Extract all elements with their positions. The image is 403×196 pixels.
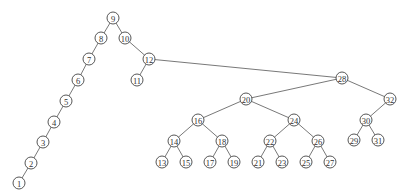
edge-20-16: [198, 99, 246, 120]
tree-node-24: 24: [288, 114, 300, 126]
tree-node-10: 10: [119, 32, 131, 44]
tree-node-14: 14: [168, 135, 180, 147]
tree-node-20: 20: [240, 93, 252, 105]
node-label: 20: [242, 95, 251, 105]
node-label: 28: [338, 74, 347, 84]
edge-20-24: [246, 99, 294, 120]
node-label: 3: [41, 138, 45, 148]
tree-node-8: 8: [95, 32, 107, 44]
tree-node-4: 4: [48, 116, 60, 128]
tree-diagram: 9810712611543212820321624301418222629311…: [0, 0, 403, 196]
node-label: 32: [386, 95, 395, 105]
node-label: 15: [182, 158, 191, 168]
node-label: 13: [158, 158, 167, 168]
tree-node-2: 2: [25, 157, 37, 169]
tree-node-21: 21: [252, 156, 264, 168]
node-label: 26: [314, 137, 323, 147]
tree-node-32: 32: [384, 93, 396, 105]
tree-node-5: 5: [60, 95, 72, 107]
node-label: 23: [278, 158, 287, 168]
tree-node-25: 25: [300, 156, 312, 168]
edge-28-20: [246, 78, 342, 99]
node-label: 1: [17, 179, 21, 189]
tree-node-13: 13: [156, 156, 168, 168]
node-label: 30: [362, 116, 371, 126]
node-label: 7: [87, 55, 91, 65]
node-label: 17: [206, 158, 215, 168]
node-label: 5: [64, 97, 68, 107]
tree-node-1: 1: [13, 177, 25, 189]
edge-12-28: [149, 59, 342, 78]
tree-node-11: 11: [131, 74, 143, 86]
node-label: 27: [326, 158, 335, 168]
tree-node-9: 9: [107, 12, 119, 24]
tree-node-28: 28: [336, 72, 348, 84]
node-label: 16: [194, 116, 203, 126]
tree-nodes: 9810712611543212820321624301418222629311…: [13, 12, 396, 189]
node-label: 9: [111, 14, 115, 24]
node-label: 2: [29, 159, 33, 169]
node-label: 11: [133, 76, 141, 86]
tree-node-30: 30: [360, 114, 372, 126]
node-label: 31: [374, 136, 383, 146]
node-label: 6: [76, 76, 80, 86]
tree-node-17: 17: [204, 156, 216, 168]
node-label: 25: [302, 158, 311, 168]
tree-node-26: 26: [312, 135, 324, 147]
node-label: 24: [290, 116, 299, 126]
tree-node-19: 19: [228, 156, 240, 168]
tree-node-27: 27: [324, 156, 336, 168]
tree-node-12: 12: [143, 53, 155, 65]
tree-node-7: 7: [83, 53, 95, 65]
tree-node-29: 29: [348, 134, 360, 146]
node-label: 8: [99, 34, 103, 44]
node-label: 29: [350, 136, 359, 146]
node-label: 22: [266, 137, 275, 147]
tree-node-22: 22: [264, 135, 276, 147]
tree-node-3: 3: [37, 136, 49, 148]
tree-node-6: 6: [72, 74, 84, 86]
tree-node-31: 31: [372, 134, 384, 146]
node-label: 10: [121, 34, 130, 44]
node-label: 19: [230, 158, 239, 168]
node-label: 21: [254, 158, 263, 168]
node-label: 18: [218, 137, 227, 147]
node-label: 12: [145, 55, 154, 65]
tree-node-23: 23: [276, 156, 288, 168]
tree-node-18: 18: [216, 135, 228, 147]
node-label: 14: [170, 137, 179, 147]
tree-node-15: 15: [180, 156, 192, 168]
edge-28-32: [342, 78, 390, 99]
tree-node-16: 16: [192, 114, 204, 126]
